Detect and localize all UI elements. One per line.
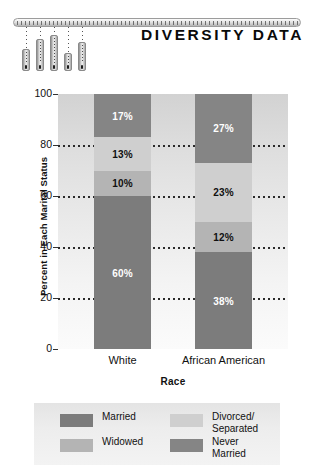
y-axis-tick-label: 60: [12, 189, 52, 201]
bar-segment[interactable]: 27%: [195, 94, 252, 163]
hanging-bar-chart-icon: [13, 27, 93, 71]
legend-swatch: [170, 414, 203, 427]
bar-segment-value-label: 10%: [94, 178, 151, 189]
hanging-line: [54, 27, 55, 35]
bar-segment[interactable]: 13%: [94, 137, 151, 170]
bar-column[interactable]: 17%13%10%60%: [94, 94, 151, 349]
stacked-bar-chart: Percent in Each Marital Status 100806040…: [0, 86, 314, 396]
hanging-line: [68, 27, 69, 53]
hanging-bar-dots: [54, 38, 55, 63]
x-axis-tick-label: African American: [154, 354, 294, 366]
legend-label: Never Married: [212, 436, 246, 459]
page-header: DIVERSITY DATA: [0, 0, 314, 78]
bar-segment-value-label: 12%: [195, 231, 252, 242]
ruler-ticks-icon: [17, 21, 299, 25]
bar-segment[interactable]: 38%: [195, 252, 252, 349]
chart-legend: MarriedDivorced/ SeparatedWidowedNever M…: [34, 403, 280, 465]
bar-segment[interactable]: 10%: [94, 171, 151, 197]
hanging-bar: [36, 39, 44, 71]
legend-label: Widowed: [102, 436, 143, 448]
hanging-bar: [50, 35, 58, 71]
hanging-line: [40, 27, 41, 39]
legend-label: Divorced/ Separated: [212, 411, 258, 434]
gridline: [58, 247, 288, 249]
hanging-bar-dots: [26, 52, 27, 63]
gridline: [58, 298, 288, 300]
hanging-bar: [22, 49, 30, 71]
hanging-line: [26, 27, 27, 49]
bar-segment-value-label: 17%: [94, 110, 151, 121]
bar-column[interactable]: 27%23%12%38%: [195, 94, 252, 349]
bar-segment-value-label: 23%: [195, 187, 252, 198]
hanging-line: [82, 27, 83, 42]
page-title: DIVERSITY DATA: [122, 26, 304, 44]
bar-segment-value-label: 38%: [195, 295, 252, 306]
x-axis-title: Race: [58, 376, 288, 387]
plot-area: 17%13%10%60%27%23%12%38%: [58, 94, 288, 349]
y-axis-tick-label: 40: [12, 240, 52, 252]
hanging-bar: [78, 42, 86, 71]
gridline: [58, 145, 288, 147]
y-axis-tick-label: 100: [12, 87, 52, 99]
hanging-bar-dots: [40, 42, 41, 63]
y-axis-tick-label: 0: [12, 342, 52, 354]
y-axis-tick-mark: [53, 349, 58, 350]
gridline: [58, 196, 288, 198]
legend-label: Married: [102, 411, 136, 423]
hanging-bar: [64, 53, 72, 71]
legend-swatch: [60, 414, 93, 427]
bar-segment-value-label: 60%: [94, 267, 151, 278]
bar-segment[interactable]: 23%: [195, 163, 252, 222]
y-axis-tick-label: 80: [12, 138, 52, 150]
legend-swatch: [60, 439, 93, 452]
bar-segment[interactable]: 12%: [195, 222, 252, 253]
hanging-bar-dots: [68, 56, 69, 63]
legend-swatch: [170, 439, 203, 452]
bar-segment[interactable]: 17%: [94, 94, 151, 137]
bar-segment-value-label: 27%: [195, 123, 252, 134]
hanging-bar-dots: [82, 45, 83, 63]
y-axis-tick-label: 20: [12, 291, 52, 303]
bar-segment-value-label: 13%: [94, 148, 151, 159]
bar-segment[interactable]: 60%: [94, 196, 151, 349]
